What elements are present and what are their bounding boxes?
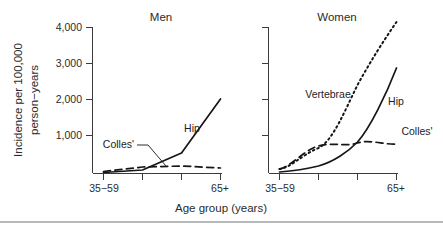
men-y-label-3000: 3,000 [56,57,82,69]
y-axis-title-line1: Incidence per 100,000 [12,43,24,157]
y-axis-title: Incidence per 100,000 person−years [12,43,40,157]
panel-women: Women 35−59 65+ Vert [262,11,433,194]
men-colles-leader-line [137,145,166,166]
panel-men: Men 4,000 3,000 2,000 1,000 35−59 65+ [56,11,229,194]
men-x-label-end: 65+ [211,182,229,194]
women-x-label-start: 35−59 [265,182,295,194]
y-axis-title-line2: person−years [28,65,40,135]
men-y-label-1000: 1,000 [56,129,82,141]
women-label-hip: Hip [388,95,404,107]
men-label-colles: Colles' [103,138,134,150]
men-label-hip: Hip [184,122,200,134]
women-x-label-end: 65+ [387,182,405,194]
men-y-label-2000: 2,000 [56,93,82,105]
x-axis-title: Age group (years) [175,202,267,214]
men-y-label-4000: 4,000 [56,21,82,33]
women-label-vertebrae: Vertebrae [305,88,351,100]
panel-men-title: Men [150,11,172,23]
figure-container: Incidence per 100,000 person−years Men 4… [0,0,443,231]
men-x-label-start: 35−59 [89,182,119,194]
women-series-hip [280,68,397,172]
bottom-divider-rule [0,221,443,223]
women-label-colles: Colles' [401,125,432,137]
panel-women-title: Women [317,11,356,23]
incidence-line-chart: Incidence per 100,000 person−years Men 4… [0,0,443,231]
women-series-colles [280,142,397,169]
